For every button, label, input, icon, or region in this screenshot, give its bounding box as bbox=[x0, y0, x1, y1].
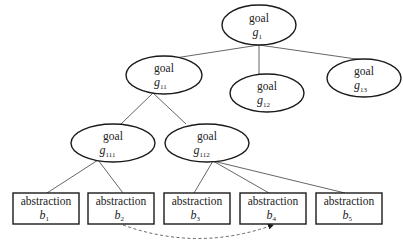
edge-g112-b5 bbox=[213, 161, 345, 193]
symbol-subscript: 1 bbox=[45, 215, 49, 223]
symbol-subscript: 4 bbox=[272, 215, 276, 223]
goal-title-label: goal bbox=[197, 130, 217, 143]
symbol-subscript: 111 bbox=[106, 151, 116, 159]
abstraction-node-b3: abstractionb3 bbox=[164, 193, 230, 224]
abstraction-title-label: abstraction bbox=[324, 195, 375, 207]
edge-g11-g111 bbox=[121, 93, 153, 124]
goal-title-label: goal bbox=[249, 12, 269, 25]
goal-node-g111: goalg111 bbox=[71, 124, 155, 162]
goal-abstraction-diagram: goalg1goalg11goalg12goalg13goalg111goalg… bbox=[0, 0, 403, 244]
abstraction-node-b4: abstractionb4 bbox=[240, 193, 306, 224]
edges-layer bbox=[47, 45, 363, 193]
abstraction-node-b1: abstractionb1 bbox=[13, 193, 79, 224]
edge-g112-b4 bbox=[213, 161, 269, 193]
goal-title-label: goal bbox=[154, 62, 174, 75]
goals-layer: goalg1goalg11goalg12goalg13goalg111goalg… bbox=[71, 5, 401, 162]
goal-node-g12: goalg12 bbox=[230, 74, 304, 112]
abstraction-title-label: abstraction bbox=[96, 195, 147, 207]
goal-node-g13: goalg13 bbox=[327, 59, 401, 97]
symbol-subscript: 12 bbox=[263, 101, 271, 109]
goal-title-label: goal bbox=[257, 80, 277, 93]
edge-g1-g13 bbox=[259, 45, 363, 60]
goal-node-g1: goalg1 bbox=[222, 5, 296, 45]
goal-node-g11: goalg11 bbox=[126, 56, 202, 94]
dashed-link-b2-b4 bbox=[123, 225, 273, 239]
edge-g1-g11 bbox=[175, 45, 259, 58]
abstraction-title-label: abstraction bbox=[248, 195, 299, 207]
symbol-subscript: 112 bbox=[199, 151, 210, 159]
edge-g111-b2 bbox=[98, 160, 123, 193]
symbol-subscript: 11 bbox=[160, 83, 167, 91]
abstractions-layer: abstractionb1abstractionb2abstractionb3a… bbox=[13, 193, 382, 224]
symbol-subscript: 1 bbox=[258, 33, 262, 41]
abstraction-node-b5: abstractionb5 bbox=[316, 193, 382, 224]
goal-title-label: goal bbox=[103, 130, 123, 143]
edge-g112-b3 bbox=[194, 161, 213, 193]
goal-title-label: goal bbox=[354, 65, 374, 78]
edge-g11-g112 bbox=[153, 93, 186, 124]
edge-g111-b1 bbox=[47, 160, 98, 193]
abstraction-title-label: abstraction bbox=[172, 195, 223, 207]
abstraction-title-label: abstraction bbox=[21, 195, 72, 207]
symbol-subscript: 13 bbox=[360, 86, 368, 94]
goal-node-g112: goalg112 bbox=[165, 124, 249, 162]
dashed-link-layer bbox=[123, 225, 273, 239]
abstraction-node-b2: abstractionb2 bbox=[88, 193, 154, 224]
symbol-subscript: 3 bbox=[196, 215, 200, 223]
symbol-subscript: 5 bbox=[348, 215, 352, 223]
symbol-subscript: 2 bbox=[120, 215, 124, 223]
